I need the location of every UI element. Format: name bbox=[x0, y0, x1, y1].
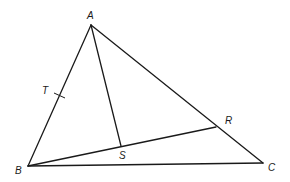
midpoint-tick-mark bbox=[54, 93, 65, 98]
point-label-r: R bbox=[225, 115, 232, 126]
segment-as bbox=[91, 25, 121, 146]
point-label-b: B bbox=[15, 165, 22, 176]
point-label-c: C bbox=[268, 162, 276, 173]
segment-ac bbox=[91, 25, 263, 163]
point-label-t: T bbox=[42, 85, 49, 96]
point-label-a: A bbox=[86, 10, 94, 21]
point-label-s: S bbox=[119, 150, 126, 161]
triangle-diagram: A B C R S T bbox=[0, 0, 290, 182]
segment-bc bbox=[28, 163, 263, 166]
